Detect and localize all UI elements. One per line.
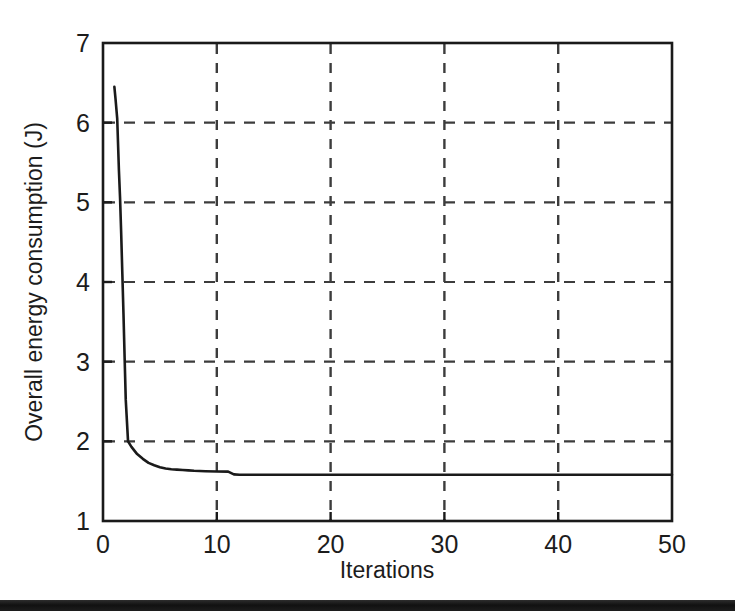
- y-tick-label: 2: [76, 427, 90, 455]
- y-axis-title: Overall energy consumption (J): [21, 122, 47, 442]
- x-tick-label: 10: [203, 530, 231, 558]
- line-chart: 01020304050 1234567 Iterations Overall e…: [0, 0, 735, 611]
- x-tick-label: 0: [96, 530, 110, 558]
- y-tick-label: 3: [76, 348, 90, 376]
- x-tick-label: 50: [658, 530, 686, 558]
- y-tick-label: 5: [76, 188, 90, 216]
- x-tick-label: 20: [317, 530, 345, 558]
- y-tick-label: 6: [76, 109, 90, 137]
- x-tick-label: 30: [430, 530, 458, 558]
- y-tick-label: 1: [76, 507, 90, 535]
- y-tick-label: 7: [76, 29, 90, 57]
- x-tick-label: 40: [544, 530, 572, 558]
- figure-background: [0, 0, 735, 611]
- x-axis-title: Iterations: [340, 557, 435, 583]
- y-tick-label: 4: [76, 268, 90, 296]
- figure-container: 01020304050 1234567 Iterations Overall e…: [0, 0, 735, 611]
- scan-artifact-bar: [0, 598, 735, 611]
